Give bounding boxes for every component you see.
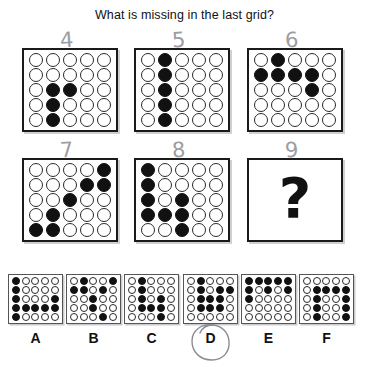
answer-option-a[interactable]: A (8, 274, 63, 346)
dot-filled (271, 53, 285, 67)
dot-empty (274, 286, 282, 294)
dot-filled (245, 286, 253, 294)
dot-filled (284, 277, 292, 285)
dot-empty (128, 286, 136, 294)
dot-filled (271, 68, 285, 82)
dot-empty (167, 277, 175, 285)
answer-option-c[interactable]: C (124, 274, 179, 346)
dot-empty (167, 286, 175, 294)
dot-empty (209, 68, 223, 82)
dot-filled (138, 277, 146, 285)
dot-empty (305, 98, 319, 112)
dot-empty (332, 277, 340, 285)
dot-empty (264, 313, 272, 321)
dot-empty (192, 178, 206, 192)
dot-empty (226, 277, 234, 285)
answer-option-d[interactable]: D (183, 274, 238, 346)
dot-empty (209, 163, 223, 177)
dot-empty (80, 208, 94, 222)
dot-filled (158, 208, 172, 222)
dot-filled (46, 83, 60, 97)
option-grid-d[interactable] (183, 274, 238, 324)
answer-option-f[interactable]: F (299, 274, 354, 346)
dot-empty (175, 163, 189, 177)
dot-empty (192, 113, 206, 127)
dot-empty (29, 83, 43, 97)
dot-filled (274, 277, 282, 285)
dot-filled (342, 286, 350, 294)
dot-empty (80, 68, 94, 82)
puzzle-grid-9: ? (247, 158, 343, 242)
dot-filled (141, 193, 155, 207)
dot-empty (245, 304, 253, 312)
option-grid-f[interactable] (299, 274, 354, 324)
option-grid-b[interactable] (66, 274, 121, 324)
dot-filled (63, 83, 77, 97)
option-grid-a[interactable] (8, 274, 63, 324)
dot-empty (254, 113, 268, 127)
dot-filled (99, 286, 107, 294)
dot-empty (128, 304, 136, 312)
option-label-f: F (299, 330, 354, 346)
dot-filled (12, 313, 20, 321)
dot-empty (209, 113, 223, 127)
dot-empty (70, 295, 78, 303)
dot-empty (226, 313, 234, 321)
dot-empty (305, 53, 319, 67)
dot-filled (97, 163, 111, 177)
dot-empty (89, 313, 97, 321)
dot-filled (313, 313, 321, 321)
dot-empty (288, 98, 302, 112)
dot-empty (22, 313, 30, 321)
dot-empty (192, 163, 206, 177)
dot-empty (22, 295, 30, 303)
dot-empty (175, 83, 189, 97)
dot-empty (332, 313, 340, 321)
dot-filled (147, 304, 155, 312)
dot-matrix (300, 275, 353, 323)
dot-empty (206, 277, 214, 285)
dot-empty (271, 83, 285, 97)
dot-empty (167, 313, 175, 321)
dot-filled (46, 113, 60, 127)
dot-empty (303, 277, 311, 285)
dot-empty (80, 295, 88, 303)
dot-empty (70, 277, 78, 285)
dot-filled (138, 304, 146, 312)
dot-filled (226, 286, 234, 294)
option-grid-c[interactable] (124, 274, 179, 324)
dot-empty (128, 277, 136, 285)
dot-filled (264, 277, 272, 285)
dot-empty (255, 313, 263, 321)
dot-empty (63, 53, 77, 67)
option-grid-e[interactable] (241, 274, 296, 324)
dot-filled (264, 286, 272, 294)
dot-filled (197, 295, 205, 303)
dot-empty (138, 313, 146, 321)
dot-filled (158, 113, 172, 127)
dot-matrix (24, 50, 116, 130)
dot-filled (245, 277, 253, 285)
dot-empty (192, 208, 206, 222)
dot-filled (51, 295, 59, 303)
answer-option-e[interactable]: E (241, 274, 296, 346)
dot-empty (147, 277, 155, 285)
dot-empty (97, 113, 111, 127)
dot-matrix (184, 275, 237, 323)
dot-empty (322, 98, 336, 112)
dot-filled (197, 304, 205, 312)
dot-empty (147, 295, 155, 303)
dot-empty (303, 286, 311, 294)
dot-empty (175, 68, 189, 82)
dot-empty (89, 286, 97, 294)
answer-option-b[interactable]: B (66, 274, 121, 346)
dot-filled (31, 304, 39, 312)
page-title: What is missing in the last grid? (0, 8, 369, 22)
dot-filled (46, 208, 60, 222)
dot-empty (29, 178, 43, 192)
dot-empty (63, 98, 77, 112)
dot-empty (80, 304, 88, 312)
dot-filled (313, 286, 321, 294)
dot-empty (141, 113, 155, 127)
dot-empty (29, 163, 43, 177)
